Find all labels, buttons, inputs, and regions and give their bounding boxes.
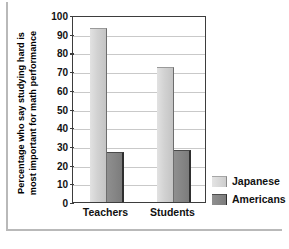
- y-tick-mark: [70, 72, 74, 73]
- legend-swatch-japanese: [212, 176, 227, 187]
- y-tick-label: 70: [42, 67, 68, 78]
- y-tick-mark: [70, 147, 74, 148]
- y-tick-label: 100: [42, 11, 68, 22]
- y-tick-mark: [70, 91, 74, 92]
- y-tick-label: 10: [42, 179, 68, 190]
- x-tick-label-students: Students: [139, 206, 206, 218]
- legend-label-americans: Americans: [232, 193, 286, 205]
- y-tick-label: 40: [42, 123, 68, 134]
- y-tick-label: 90: [42, 29, 68, 40]
- legend-label-japanese: Japanese: [232, 175, 280, 187]
- chart-figure: Percentage who say studying hard is most…: [0, 0, 289, 249]
- y-tick-label: 80: [42, 48, 68, 59]
- bar-japanese-students: [157, 67, 174, 202]
- y-tick-mark: [70, 203, 74, 204]
- legend-item-japanese: Japanese: [212, 172, 286, 190]
- y-tick-mark: [70, 16, 74, 17]
- y-axis-tick-labels: 0102030405060708090100: [42, 16, 68, 203]
- frame-bottom-rule: [6, 229, 282, 231]
- y-tick-label: 30: [42, 141, 68, 152]
- chart-legend: Japanese Americans: [212, 172, 286, 208]
- y-tick-mark: [70, 128, 74, 129]
- y-tick-mark: [70, 184, 74, 185]
- y-axis-title: Percentage who say studying hard is most…: [10, 8, 44, 218]
- legend-item-americans: Americans: [212, 190, 286, 208]
- frame-left-rule: [6, 2, 8, 230]
- y-axis-title-line1: Percentage who say studying hard is: [16, 32, 26, 194]
- y-tick-label: 60: [42, 85, 68, 96]
- y-axis-title-line2: most important for math performance: [27, 9, 39, 217]
- bar-japanese-teachers: [90, 28, 107, 202]
- x-tick-label-teachers: Teachers: [72, 206, 139, 218]
- plot-area: [72, 16, 206, 203]
- y-tick-mark: [70, 35, 74, 36]
- y-tick-label: 20: [42, 160, 68, 171]
- y-tick-mark: [70, 110, 74, 111]
- y-tick-mark: [70, 166, 74, 167]
- bar-americans-teachers: [107, 152, 124, 202]
- y-tick-label: 50: [42, 104, 68, 115]
- legend-swatch-americans: [212, 194, 227, 205]
- y-tick-label: 0: [42, 198, 68, 209]
- y-tick-mark: [70, 53, 74, 54]
- bar-americans-students: [174, 150, 191, 202]
